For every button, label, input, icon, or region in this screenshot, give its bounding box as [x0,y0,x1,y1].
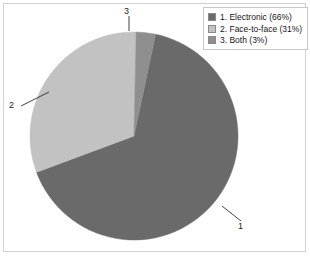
legend-label-face-to-face: 2. Face-to-face (31%) [220,24,302,34]
legend-swatch-both [208,36,216,44]
legend-label-electronic: 1. Electronic (66%) [220,12,292,22]
legend-item-electronic: 1. Electronic (66%) [208,12,302,23]
legend-label-both: 3. Both (3%) [220,35,267,45]
chart-legend: 1. Electronic (66%) 2. Face-to-face (31%… [203,7,308,50]
pie-chart-figure: 1 2 3 1. Electronic (66%) 2. Face-to-fac… [0,0,310,261]
pie-callout-label-3: 3 [124,6,129,16]
pie-callout-label-1: 1 [238,221,243,231]
legend-item-face-to-face: 2. Face-to-face (31%) [208,23,302,34]
legend-swatch-face-to-face [208,25,216,33]
legend-item-both: 3. Both (3%) [208,35,302,46]
pie-callout-label-2: 2 [9,100,14,110]
leader-line-1 [222,206,241,221]
legend-swatch-electronic [208,13,216,21]
